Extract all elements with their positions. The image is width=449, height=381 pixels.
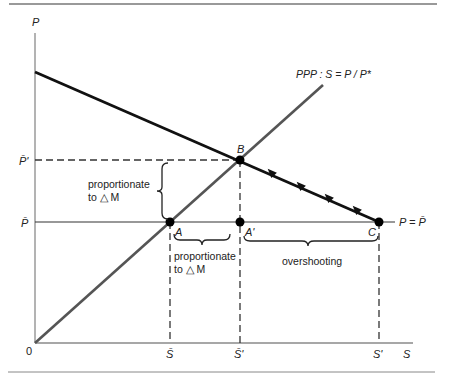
point-a-prime xyxy=(236,218,245,227)
origin-label: 0 xyxy=(26,345,32,357)
y-axis-label: P xyxy=(32,16,40,28)
s-bar-label: S̄ xyxy=(166,348,174,360)
p-bar-prime-label: P̄' xyxy=(19,155,29,167)
p-bar-label: P̄ xyxy=(21,217,29,229)
vertical-brace-label-line1: proportionate xyxy=(88,178,150,190)
point-a-prime-label: A' xyxy=(244,226,255,238)
point-b-label: B xyxy=(237,143,244,155)
horizontal-brace-label-line2: to △ M xyxy=(174,263,205,275)
x-axis-label: S xyxy=(403,348,411,360)
ppp-line xyxy=(35,85,323,343)
horizontal-brace-a-aprime xyxy=(174,234,230,245)
horizontal-brace-overshooting xyxy=(244,236,378,246)
point-b xyxy=(236,156,245,165)
vertical-brace xyxy=(157,163,168,219)
point-c-label: C xyxy=(368,226,376,238)
overshooting-label: overshooting xyxy=(282,255,342,267)
horizontal-brace-label-line1: proportionate xyxy=(174,250,236,262)
s-bar-prime-label: S̄' xyxy=(234,348,244,360)
point-a-label: A xyxy=(174,226,182,238)
s-prime-label: S' xyxy=(373,348,383,360)
vertical-brace-label-line2: to △ M xyxy=(88,191,119,203)
overshooting-diagram: P S 0 P̄' P̄ S̄ S̄' S' PPP : S = P / P* … xyxy=(0,0,449,381)
ppp-line-label: PPP : S = P / P* xyxy=(296,68,372,80)
p-equals-pbar-label: P = P̄ xyxy=(399,216,426,228)
